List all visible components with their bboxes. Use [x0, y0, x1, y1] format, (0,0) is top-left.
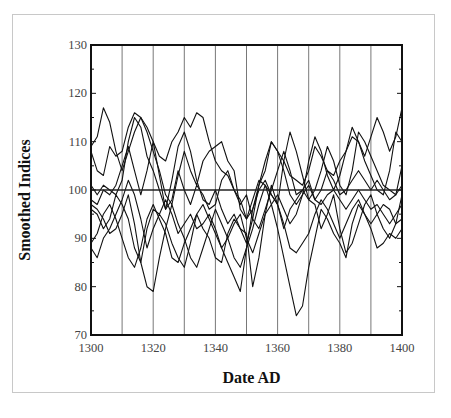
y-tick-label: 90 [75, 231, 88, 245]
y-tick-label: 80 [75, 280, 88, 294]
y-tick-label: 70 [75, 328, 88, 342]
x-axis-title: Date AD [222, 369, 280, 386]
x-axis-ticks: 130013201340136013801400 [79, 341, 415, 355]
y-tick-label: 120 [68, 86, 87, 100]
x-tick-label: 1300 [79, 341, 104, 355]
x-tick-label: 1400 [390, 341, 415, 355]
x-tick-label: 1340 [203, 341, 228, 355]
y-tick-label: 110 [69, 135, 87, 149]
y-tick-label: 130 [68, 38, 87, 52]
x-tick-label: 1320 [141, 341, 166, 355]
line-chart: 708090100110120130 130013201340136013801… [0, 0, 451, 418]
y-tick-label: 100 [68, 183, 87, 197]
y-axis-title: Smoothed Indices [16, 139, 33, 260]
x-tick-label: 1380 [327, 341, 352, 355]
x-tick-label: 1360 [265, 341, 290, 355]
